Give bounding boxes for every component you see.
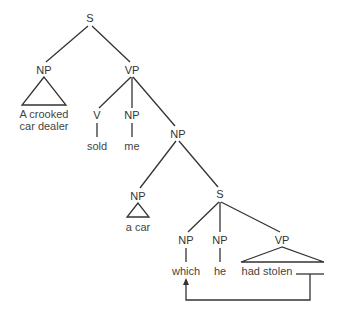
node-rel-vp: VP — [275, 234, 290, 246]
verb-word: sold — [87, 140, 107, 152]
subject-words-line1: A crooked — [20, 108, 69, 120]
rel-vp-words: had stolen — [242, 265, 293, 277]
movement-arrow-path — [186, 274, 310, 300]
object1-word: me — [124, 140, 139, 152]
node-subject-np: NP — [36, 64, 51, 76]
node-root-s: S — [86, 12, 93, 24]
edge-s-vp — [221, 202, 280, 232]
edge-vp-v — [99, 77, 131, 108]
node-object1-np: NP — [124, 109, 139, 121]
node-rel-np-which: NP — [178, 234, 193, 246]
rel-vp-triangle — [241, 247, 324, 262]
subject-np-triangle — [22, 77, 66, 105]
subject-words-line2: car dealer — [20, 120, 69, 132]
edge-np-np — [140, 141, 176, 188]
edge-np-s — [179, 141, 218, 187]
edge-s-vp — [92, 26, 130, 62]
rel-word-which: which — [172, 265, 200, 277]
node-rel-s: S — [216, 188, 223, 200]
edge-s-np — [46, 26, 88, 62]
det-np-words: a car — [126, 221, 150, 233]
det-np-triangle — [127, 203, 149, 217]
node-vp: VP — [125, 64, 140, 76]
node-det-np: NP — [130, 190, 145, 202]
arrowhead-icon — [183, 278, 189, 285]
node-rel-np-he: NP — [212, 234, 227, 246]
node-object2-np: NP — [170, 128, 185, 140]
node-verb: V — [93, 109, 100, 121]
edge-s-np-which — [188, 202, 219, 232]
rel-word-he: he — [214, 265, 226, 277]
